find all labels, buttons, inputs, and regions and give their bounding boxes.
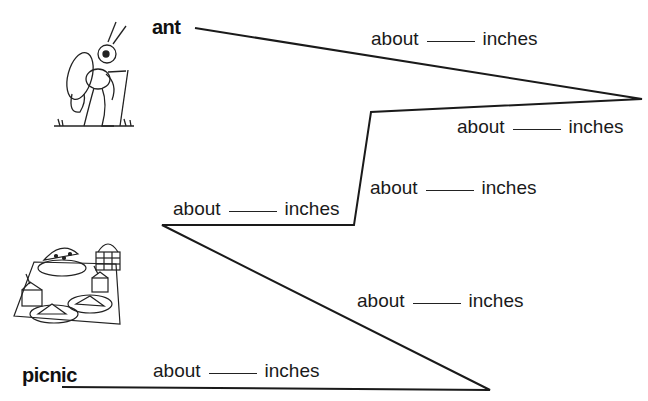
segment-1-measure: aboutinches — [371, 28, 537, 50]
segment-5-measure: aboutinches — [357, 290, 523, 312]
segment-6-suffix: inches — [265, 360, 320, 381]
segment-5-answer-blank[interactable] — [413, 303, 461, 304]
segment-2-suffix: inches — [569, 116, 624, 137]
segment-4-measure: aboutinches — [173, 198, 339, 220]
segment-2-measure: aboutinches — [457, 116, 623, 138]
segment-2-prefix: about — [457, 116, 505, 137]
segment-3-measure: aboutinches — [370, 177, 536, 199]
start-label-ant: ant — [152, 16, 181, 39]
segment-2-answer-blank[interactable] — [513, 129, 561, 130]
segment-3-prefix: about — [370, 177, 418, 198]
segment-4-prefix: about — [173, 198, 221, 219]
segment-5-prefix: about — [357, 290, 405, 311]
segment-1-suffix: inches — [483, 28, 538, 49]
picnic-blanket-icon — [4, 234, 124, 334]
segment-1-answer-blank[interactable] — [427, 41, 475, 42]
segment-4-suffix: inches — [285, 198, 340, 219]
segment-3-answer-blank[interactable] — [426, 190, 474, 191]
segment-4-answer-blank[interactable] — [229, 211, 277, 212]
ant-hiker-icon — [50, 14, 140, 134]
segment-5-suffix: inches — [469, 290, 524, 311]
segment-6-measure: aboutinches — [153, 360, 319, 382]
end-label-picnic: picnic — [22, 364, 77, 387]
segment-1-prefix: about — [371, 28, 419, 49]
segment-6-prefix: about — [153, 360, 201, 381]
segment-6-answer-blank[interactable] — [209, 373, 257, 374]
segment-3-suffix: inches — [482, 177, 537, 198]
